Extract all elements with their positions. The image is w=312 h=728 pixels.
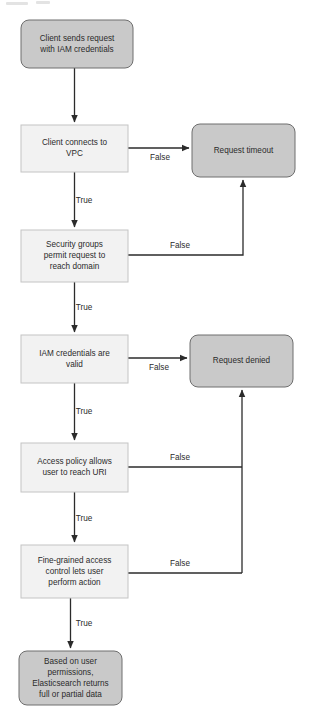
node-label-line: Request timeout xyxy=(214,146,274,155)
node-label-line: permissions, xyxy=(48,668,94,677)
node-label-line: permit request to xyxy=(44,251,106,260)
node-label-line: full or partial data xyxy=(39,690,102,699)
node-label-line: Fine-grained access xyxy=(38,556,112,565)
edge-label-true: True xyxy=(76,619,93,628)
node-label-line: Security groups xyxy=(46,240,103,249)
node-label-line: reach domain xyxy=(50,262,100,271)
node-iam-valid[interactable]: IAM credentials arevalid xyxy=(21,335,128,383)
edge-label-true: True xyxy=(76,303,93,312)
node-label-line: control lets user xyxy=(46,567,104,576)
node-label-line: VPC xyxy=(66,149,83,158)
edge-label-true: True xyxy=(76,196,93,205)
node-label-line: Client connects to xyxy=(42,138,108,147)
node-label-line: valid xyxy=(66,360,83,369)
node-label-line: perform action xyxy=(48,578,101,587)
node-vpc[interactable]: Client connects toVPC xyxy=(21,125,128,172)
edge-label-false: False xyxy=(149,363,169,372)
node-label-line: Client sends request xyxy=(40,34,115,43)
node-label-line: Elasticsearch returns xyxy=(32,679,108,688)
node-label-line: Based on user xyxy=(44,657,97,666)
edge-label-false: False xyxy=(170,559,190,568)
node-fine-grained[interactable]: Fine-grained accesscontrol lets userperf… xyxy=(21,545,128,598)
edge-label-false: False xyxy=(170,241,190,250)
edge-label-true: True xyxy=(76,407,93,416)
node-start[interactable]: Client sends requestwith IAM credentials xyxy=(21,20,133,68)
node-result[interactable]: Based on userpermissions,Elasticsearch r… xyxy=(19,651,122,705)
node-label-line: IAM credentials are xyxy=(39,349,110,358)
node-label-line: Access policy allows xyxy=(37,457,112,466)
node-timeout[interactable]: Request timeout xyxy=(192,124,295,177)
edge-label-true: True xyxy=(76,514,93,523)
node-label-line: with IAM credentials xyxy=(39,45,113,54)
node-label-line: user to reach URI xyxy=(42,468,106,477)
node-denied[interactable]: Request denied xyxy=(190,335,293,387)
edge-label-false: False xyxy=(150,153,170,162)
node-security-groups[interactable]: Security groupspermit request toreach do… xyxy=(21,230,128,282)
node-label-line: Request denied xyxy=(213,356,271,365)
edge-label-false: False xyxy=(170,453,190,462)
node-access-policy[interactable]: Access policy allowsuser to reach URI xyxy=(21,443,128,492)
flowchart-canvas: FalseTrueFalseTrueFalseTrueFalseTrueFals… xyxy=(0,0,312,728)
